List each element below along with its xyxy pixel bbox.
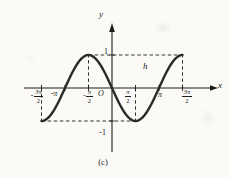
- y-axis-label: y: [99, 10, 103, 19]
- minus-sign: -: [31, 91, 34, 100]
- figure-page: y x O 1 -1 h - 3π 2 -π - π 2 π 2 π 3π 2: [0, 0, 229, 178]
- x-tick-label-3pi-2: 3π 2: [179, 89, 195, 105]
- minus-sign: -: [83, 91, 86, 100]
- fraction: π 2: [86, 89, 92, 105]
- curve-label-h: h: [143, 62, 148, 71]
- x-axis-arrow-icon: [210, 85, 218, 91]
- figure-caption: (c): [83, 157, 123, 167]
- fraction: π 2: [125, 89, 131, 105]
- x-axis-label: x: [218, 81, 222, 90]
- y-tick-label-neg-1: -1: [90, 129, 106, 137]
- y-tick-label-1: 1: [96, 48, 108, 56]
- x-tick-label-neg-pi-2: - π 2: [76, 89, 100, 105]
- x-tick-label-pi-2: π 2: [120, 89, 136, 105]
- x-tick-label-neg-pi: -π: [42, 90, 66, 98]
- x-tick-label-pi: π: [150, 91, 170, 99]
- y-axis-arrow-icon: [109, 23, 115, 32]
- fraction: 3π 2: [182, 89, 192, 105]
